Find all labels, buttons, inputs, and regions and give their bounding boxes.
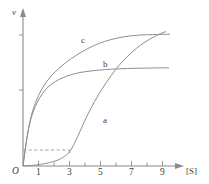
curve-label-b: b	[103, 60, 108, 69]
origin-label: O	[12, 167, 19, 177]
x-tick-label-1: 1	[36, 168, 41, 178]
x-tick-label-9: 9	[160, 168, 165, 178]
kinetics-chart-figure: v O [S] 1 3 5 7 9 c b a	[0, 0, 209, 184]
chart-plot-area	[0, 0, 209, 184]
x-axis-arrowhead	[175, 163, 184, 169]
x-axis-label: [S]	[186, 167, 197, 176]
curve-c-path	[23, 34, 170, 166]
x-tick-label-7: 7	[129, 168, 134, 178]
y-axis-arrowhead	[20, 8, 26, 17]
curve-label-c: c	[81, 36, 85, 45]
x-tick-label-5: 5	[98, 168, 103, 178]
curve-a-path	[23, 32, 166, 167]
x-tick-label-3: 3	[67, 168, 72, 178]
curve-b-path	[23, 68, 169, 166]
curve-label-a: a	[103, 116, 107, 125]
y-axis-label: v	[12, 8, 16, 17]
